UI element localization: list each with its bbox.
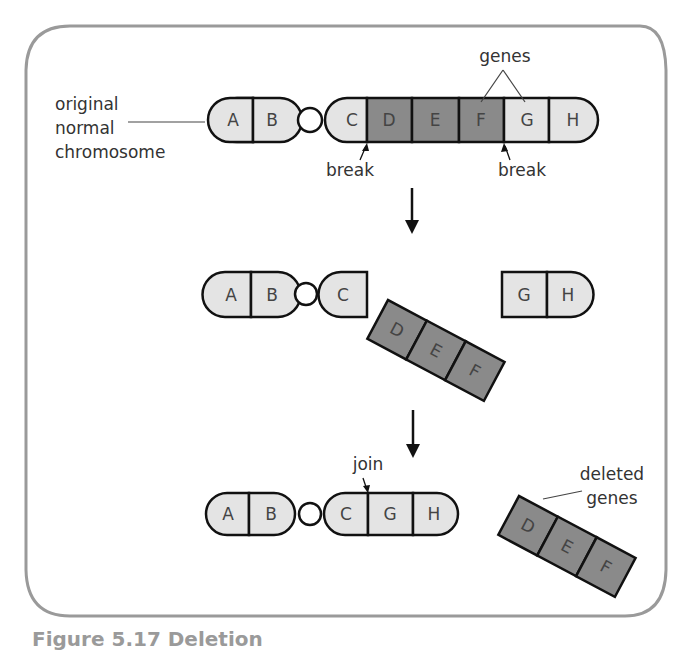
gene-letter: G (383, 504, 396, 524)
label-line: deleted (580, 464, 644, 484)
arrowhead-icon (501, 143, 508, 152)
label-line: normal (55, 118, 115, 138)
gene-letter: B (266, 285, 278, 305)
gene-letter: A (222, 504, 234, 524)
down-arrow-icon (405, 188, 419, 234)
break-label-right: break (498, 143, 546, 180)
gene-letter: C (337, 285, 349, 305)
down-arrow-icon (406, 410, 420, 458)
fragment-ABC: A B C (203, 272, 368, 317)
fragment-GH: G H (502, 272, 594, 317)
gene-letter: C (340, 504, 352, 524)
gene-letter: F (476, 110, 486, 130)
gene-letter: B (266, 110, 278, 130)
figure-caption: Figure 5.17 Deletion (32, 627, 263, 651)
label-line: original (55, 94, 119, 114)
genes-text: genes (479, 46, 530, 66)
arrowhead-icon (362, 143, 369, 151)
join-label: join (352, 454, 384, 493)
rejoined-chromosome: A B C G H (206, 493, 458, 535)
gene-letter: C (346, 110, 358, 130)
gene-letter: G (517, 285, 530, 305)
genes-label: genes (479, 46, 530, 102)
centromere (298, 108, 322, 132)
gene-letter: G (520, 110, 533, 130)
join-text: join (352, 454, 384, 474)
deleted-genes-label: deleted genes (543, 464, 644, 508)
gene-letter: D (382, 110, 395, 130)
label-line: genes (586, 488, 637, 508)
gene-letter: H (428, 504, 441, 524)
gene-letter: B (265, 504, 277, 524)
gene-letter: A (225, 285, 237, 305)
break-text: break (498, 160, 546, 180)
original-chromosome: A B C D E F G H (208, 98, 598, 142)
gene-letter: E (430, 110, 441, 130)
centromere (299, 503, 321, 525)
gene-letter: A (227, 110, 239, 130)
label-line: chromosome (55, 142, 165, 162)
break-label-left: break (326, 143, 374, 180)
deleted-fragment-DEF: D E F (498, 496, 635, 597)
gene-letter: H (562, 285, 575, 305)
break-text: break (326, 160, 374, 180)
original-chromosome-label: original normal chromosome (55, 94, 205, 162)
leader-line (543, 491, 582, 499)
centromere (295, 283, 317, 305)
gene-letter: H (567, 110, 580, 130)
fragment-DEF: D E F (367, 300, 504, 401)
